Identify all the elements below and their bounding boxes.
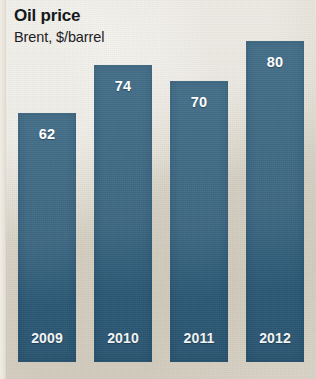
bar-2012: 802012 xyxy=(246,41,304,362)
bar-grain xyxy=(170,81,228,362)
bar-grain xyxy=(18,113,76,362)
bar-category-label-2010: 2010 xyxy=(94,330,152,346)
bar-value-label-2011: 70 xyxy=(170,94,228,110)
bar-category-label-2011: 2011 xyxy=(170,330,228,346)
bar-2010: 742010 xyxy=(94,65,152,362)
bar-value-label-2009: 62 xyxy=(18,126,76,142)
bar-value-label-2010: 74 xyxy=(94,78,152,94)
oil-price-bar-chart: Oil price Brent, $/barrel 62200974201070… xyxy=(0,0,316,379)
bar-category-label-2012: 2012 xyxy=(246,330,304,346)
bar-2011: 702011 xyxy=(170,81,228,362)
bar-grain xyxy=(246,41,304,362)
bar-grain xyxy=(94,65,152,362)
plot-area: 622009742010702011802012 xyxy=(0,0,316,379)
bar-2009: 622009 xyxy=(18,113,76,362)
bar-value-label-2012: 80 xyxy=(246,54,304,70)
bar-category-label-2009: 2009 xyxy=(18,330,76,346)
